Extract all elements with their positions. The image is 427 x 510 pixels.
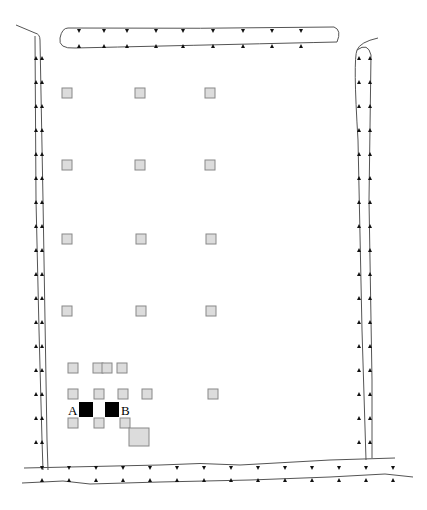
tick-icon — [102, 29, 106, 33]
tick-icon — [337, 466, 341, 470]
tick-icon — [368, 416, 372, 420]
tick-icon — [125, 29, 129, 33]
tick-icon — [357, 200, 361, 204]
tick-icon — [368, 176, 372, 180]
tick-icon — [357, 296, 361, 300]
tick-icon — [357, 80, 361, 84]
tick-icon — [357, 104, 361, 108]
grid-square — [205, 88, 215, 98]
grid-square — [142, 389, 152, 399]
tick-icon — [368, 248, 372, 252]
tick-icon — [368, 440, 372, 444]
tick-icon — [357, 56, 361, 60]
tick-icon — [40, 440, 44, 444]
large-square — [129, 428, 149, 446]
tick-icon — [40, 152, 44, 156]
site-plan-diagram — [0, 0, 427, 510]
tick-icon — [40, 478, 44, 482]
left-path — [16, 25, 48, 470]
tick-icon — [34, 56, 38, 60]
tick-icon — [77, 44, 81, 48]
tick-icon — [34, 344, 38, 348]
grid-square — [62, 234, 72, 244]
tick-icon — [125, 44, 129, 48]
tick-icon — [67, 478, 71, 482]
tick-icon — [357, 416, 361, 420]
tick-icon — [34, 176, 38, 180]
tick-icon — [34, 296, 38, 300]
label-a: A — [68, 403, 77, 419]
tick-icon — [364, 478, 368, 482]
tick-icon — [34, 392, 38, 396]
tick-icon — [40, 416, 44, 420]
tick-icon — [202, 478, 206, 482]
grid-square — [68, 389, 78, 399]
tick-icon — [368, 104, 372, 108]
tick-icon — [357, 368, 361, 372]
tick-icon — [310, 478, 314, 482]
tick-icon — [299, 44, 303, 48]
tick-icon — [270, 44, 274, 48]
tick-icon — [154, 29, 158, 33]
tick-icon — [299, 29, 303, 33]
tick-icon — [241, 29, 245, 33]
tick-icon — [34, 128, 38, 132]
grid-square — [206, 306, 216, 316]
grid-square — [136, 306, 146, 316]
tick-icon — [357, 176, 361, 180]
grid-square — [68, 418, 78, 428]
tick-icon — [34, 104, 38, 108]
tick-icon — [368, 224, 372, 228]
tick-icon — [283, 466, 287, 470]
tick-icon — [34, 440, 38, 444]
tick-icon — [357, 440, 361, 444]
tick-icon — [102, 44, 106, 48]
tick-icon — [256, 466, 260, 470]
tick-icon — [40, 272, 44, 276]
tick-icon — [34, 416, 38, 420]
tick-icon — [121, 478, 125, 482]
tick-icon — [368, 296, 372, 300]
tick-icon — [34, 80, 38, 84]
tick-icon — [368, 128, 372, 132]
tick-icon — [94, 478, 98, 482]
tick-icon — [34, 224, 38, 228]
grid-square — [135, 160, 145, 170]
label-b: B — [121, 403, 130, 419]
tick-icon — [40, 344, 44, 348]
tick-icon — [368, 392, 372, 396]
tick-icon — [34, 152, 38, 156]
grid-square — [62, 160, 72, 170]
grid-square — [120, 418, 130, 428]
tick-icon — [67, 466, 71, 470]
tick-icon — [364, 466, 368, 470]
tick-icon — [337, 478, 341, 482]
grid-square — [205, 160, 215, 170]
marked-square — [79, 402, 93, 417]
tick-icon — [211, 29, 215, 33]
tick-icon — [175, 466, 179, 470]
marked-square — [105, 402, 119, 417]
grid-square — [94, 418, 104, 428]
grid-square — [62, 88, 72, 98]
tick-icon — [391, 478, 395, 482]
tick-icon — [357, 152, 361, 156]
tick-icon — [310, 466, 314, 470]
tick-icon — [202, 466, 206, 470]
tick-icon — [357, 320, 361, 324]
grid-square — [208, 389, 218, 399]
tick-icon — [40, 104, 44, 108]
tick-icon — [181, 29, 185, 33]
tick-icon — [391, 466, 395, 470]
grid-square — [117, 363, 127, 373]
tick-icon — [175, 478, 179, 482]
tick-icon — [40, 320, 44, 324]
tick-icon — [40, 368, 44, 372]
tick-icon — [357, 224, 361, 228]
tick-icon — [40, 176, 44, 180]
tick-icon — [368, 80, 372, 84]
grid-square — [136, 234, 146, 244]
top-path — [60, 27, 339, 48]
tick-icon — [270, 29, 274, 33]
tick-icon — [357, 392, 361, 396]
